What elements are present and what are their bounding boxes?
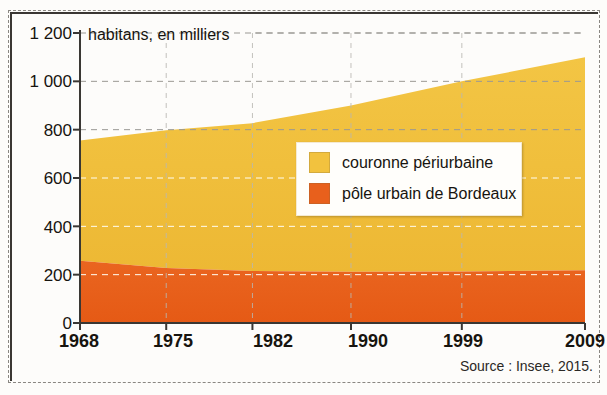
x-tick-label-1968: 1968 <box>37 331 121 352</box>
x-tick-label-2009: 2009 <box>543 331 607 352</box>
chart-legend: couronne périurbaine pôle urbain de Bord… <box>296 142 522 216</box>
legend-label-couronne-periurbaine: couronne périurbaine <box>342 154 493 172</box>
y-tick-label-600: 600 <box>0 169 72 189</box>
x-tick-label-1982: 1982 <box>231 331 315 352</box>
x-tick-label-1999: 1999 <box>421 331 505 352</box>
x-tick-label-1975: 1975 <box>131 331 215 352</box>
chart-figure: habitans, en milliers 1 200 1 000 800 60… <box>0 0 607 395</box>
legend-item-couronne-periurbaine: couronne périurbaine <box>309 152 493 173</box>
y-tick-label-200: 200 <box>0 266 72 286</box>
legend-swatch-orange <box>309 183 330 204</box>
y-tick-label-1200: 1 200 <box>0 24 72 44</box>
y-tick-label-400: 400 <box>0 218 72 238</box>
y-tick-label-800: 800 <box>0 121 72 141</box>
legend-item-pole-urbain: pôle urbain de Bordeaux <box>309 183 516 204</box>
y-tick-label-1000: 1 000 <box>0 72 72 92</box>
source-note: Source : Insee, 2015. <box>460 358 593 374</box>
axis-unit-label: habitans, en milliers <box>88 26 229 44</box>
x-tick-label-1990: 1990 <box>326 331 410 352</box>
legend-swatch-yellow <box>309 152 330 173</box>
legend-label-pole-urbain: pôle urbain de Bordeaux <box>342 185 516 203</box>
